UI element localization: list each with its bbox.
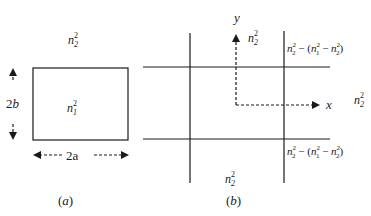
y-axis-label: y	[232, 10, 240, 25]
caption-a: (a)	[58, 193, 73, 208]
x-axis-label: x	[325, 97, 332, 112]
region-bottom-center-label: n22	[225, 170, 235, 188]
core-index-label: n21	[67, 99, 77, 117]
region-right-label: n22	[354, 91, 364, 109]
height-label: 2b	[6, 96, 20, 111]
region-bottom-right-label: n22 − (n21 − n22)	[287, 144, 344, 160]
caption-b: (b)	[226, 193, 241, 208]
panel-a: n22 n21 2b 2a (a)	[6, 31, 128, 208]
region-top-right-label: n22 − (n21 − n22)	[287, 41, 344, 57]
core-rectangle	[33, 68, 128, 140]
cladding-index-label-a: n22	[68, 31, 78, 49]
region-top-center-label: n22	[248, 29, 258, 47]
width-label: 2a	[66, 148, 79, 163]
waveguide-diagram: n22 n21 2b 2a (a) y x n22 n22 n22 n22 − …	[0, 0, 371, 216]
panel-b: y x n22 n22 n22 n22 − (n21 − n22) n22 − …	[143, 10, 364, 208]
